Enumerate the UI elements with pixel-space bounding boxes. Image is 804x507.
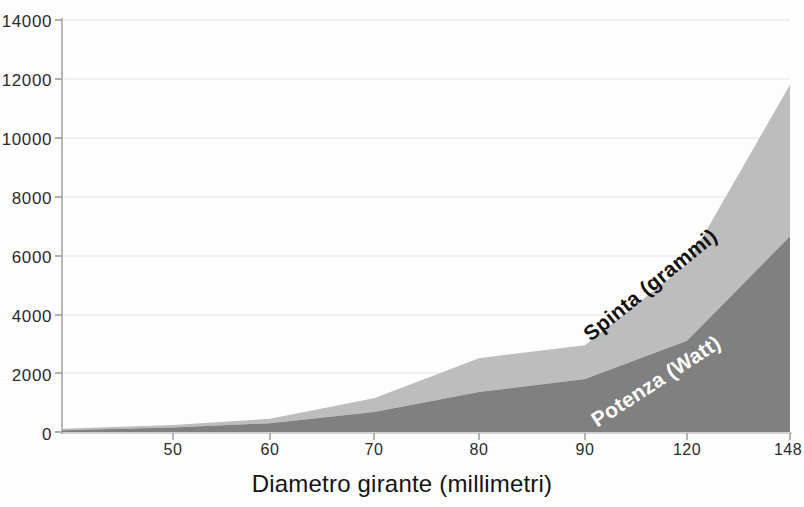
- x-tick-80: 80: [470, 441, 489, 459]
- x-axis-title: Diametro girante (millimetri): [0, 470, 804, 498]
- area-chart: 14000 12000 10000 8000 6000 4000 2000 0: [0, 0, 804, 507]
- x-tick-148: 148: [774, 441, 802, 459]
- x-tick-70: 70: [365, 441, 384, 459]
- plot-area: [0, 0, 804, 470]
- x-tick-90: 90: [576, 441, 595, 459]
- x-axis-tick-labels: 50 60 70 80 90 120 148: [0, 441, 804, 465]
- y-axis-ticks: [55, 20, 62, 432]
- x-axis-ticks: [173, 433, 790, 440]
- x-tick-120: 120: [673, 441, 701, 459]
- x-tick-60: 60: [261, 441, 280, 459]
- x-tick-50: 50: [164, 441, 183, 459]
